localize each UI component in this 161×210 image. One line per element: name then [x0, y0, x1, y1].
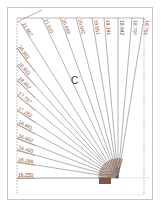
top-dimension-label: 21.807 — [21, 21, 34, 37]
corner-line — [17, 10, 42, 22]
top-dimension-label: 20.683 — [61, 18, 72, 35]
radial-dimension-diagram: 21.80721.51020.68320.04219.55119.19118.9… — [0, 0, 161, 210]
top-dimension-label: 18.942 — [119, 20, 125, 36]
left-dimension-label: 16.250 — [18, 172, 34, 178]
top-dimension-label: 19.191 — [105, 20, 112, 36]
dimension-line — [104, 18, 118, 178]
dimension-line — [42, 18, 118, 178]
dimension-line — [118, 18, 132, 178]
center-label-glyph: C — [71, 75, 78, 86]
top-dimension-label: 18.797 — [132, 20, 139, 36]
dimension-line — [20, 22, 118, 178]
arc-label-cluster — [99, 178, 111, 184]
dimension-line — [118, 18, 144, 178]
dimension-line — [92, 18, 118, 178]
top-dimension-label: 21.510 — [43, 18, 55, 35]
